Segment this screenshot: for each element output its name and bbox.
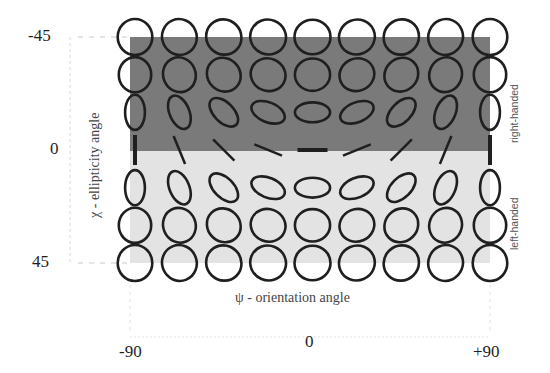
x-tick-minus-90: -90 [119,342,142,362]
ellipse-grid-plot [0,0,550,373]
x-tick-0: 0 [305,332,314,352]
polarization-diagram: -45 0 45 -90 0 +90 ψ - orientation angle… [0,0,550,373]
y-axis-title: χ - ellipticity angle [87,113,103,218]
x-tick-plus-90: +90 [473,342,500,362]
right-handed-label: right-handed [508,84,520,143]
y-tick-45: 45 [32,252,49,272]
y-tick-0: 0 [50,139,59,159]
x-axis-title: ψ - orientation angle [235,290,350,306]
left-handed-label: left-handed [508,197,520,250]
y-tick-minus-45: -45 [28,26,51,46]
